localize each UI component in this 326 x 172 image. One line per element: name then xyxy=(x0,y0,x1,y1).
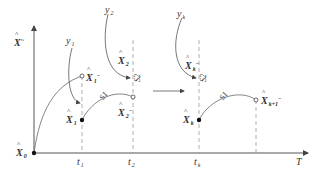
x-axis-label: T xyxy=(296,157,302,167)
xkp-base: X xyxy=(185,61,192,71)
origin-state-label: X0 xyxy=(16,148,27,159)
state-label-xk-prior: Xk− xyxy=(185,60,199,72)
observation-label-y1: y1 xyxy=(66,36,74,47)
state-estimation-diagram xyxy=(0,0,326,172)
origin-state-base: X xyxy=(16,148,23,158)
xk-base: X xyxy=(183,115,190,125)
state-label-xk: Xk xyxy=(183,115,194,126)
s2-first-text: S2 xyxy=(133,74,142,82)
x2p-base: X xyxy=(118,108,125,118)
tick-label-t2: t2 xyxy=(128,157,135,168)
tick-t2-sub: 2 xyxy=(132,162,135,168)
y-axis-label: X~ xyxy=(14,37,24,48)
observation-arrow-y2 xyxy=(105,14,130,78)
x2-base: X xyxy=(118,56,125,66)
state-marker-x1-prior xyxy=(80,74,84,78)
state-label-x2: X2 xyxy=(118,56,129,67)
tick-t2-base: t xyxy=(128,156,131,167)
y-axis-label-sup: ~ xyxy=(21,37,24,43)
x1-base: X xyxy=(66,115,73,125)
state-label-xk1-prior: Xk+1− xyxy=(261,95,282,107)
tick-t1-sub: 1 xyxy=(81,162,84,168)
xkp-sub: k xyxy=(193,66,196,72)
state-marker-xk1-prior xyxy=(254,98,258,102)
xkp-sup: − xyxy=(196,60,200,66)
x1p-sub: 1 xyxy=(94,78,97,84)
x1p-base: X xyxy=(86,73,93,83)
step-label-s2-first: S2 xyxy=(134,74,142,82)
xk1p-sub: k+1 xyxy=(269,101,278,107)
state-label-x1-prior: X1− xyxy=(86,72,100,84)
tick-tk-sub: k xyxy=(198,162,201,168)
state-label-x2-prior: X2− xyxy=(118,107,132,119)
tick-label-tk: tk xyxy=(194,157,200,168)
state-label-x1: X1 xyxy=(66,115,77,126)
observation-label-yk: yk xyxy=(177,9,185,20)
x2p-sup: − xyxy=(129,107,133,113)
x1-sub: 1 xyxy=(74,120,77,126)
observation-arrow-y1 xyxy=(69,48,80,103)
xk1p-base: X xyxy=(261,96,268,106)
x2p-sub: 2 xyxy=(126,113,129,119)
x2-sub: 2 xyxy=(126,61,129,67)
origin-state-sub: 0 xyxy=(24,153,27,159)
xk1p-sup: − xyxy=(278,95,282,101)
propagation-curve-k xyxy=(199,95,256,120)
observation-label-y2: y2 xyxy=(105,5,113,16)
tick-t1-base: t xyxy=(77,156,80,167)
state-marker-x1 xyxy=(80,118,84,122)
obs-y2-sub: 2 xyxy=(110,10,113,16)
state-marker-xk xyxy=(197,118,201,122)
x1p-sup: − xyxy=(97,72,101,78)
tick-label-t1: t1 xyxy=(77,157,84,168)
obs-y1-base: y xyxy=(66,35,70,46)
xk-sub: k xyxy=(191,120,194,126)
obs-yk-base: y xyxy=(177,8,181,19)
tick-tk-base: t xyxy=(194,156,197,167)
x-axis-label-text: T xyxy=(296,156,302,167)
s2-k-text: S2 xyxy=(199,74,208,82)
obs-y2-base: y xyxy=(105,4,109,15)
state-marker-x2-prior xyxy=(131,95,135,99)
step-label-s2-k: S2 xyxy=(200,74,208,82)
y-axis-label-base: X xyxy=(14,38,21,48)
obs-y1-sub: 1 xyxy=(71,41,74,47)
obs-yk-sub: k xyxy=(182,14,185,20)
state-marker-x0 xyxy=(32,151,36,155)
